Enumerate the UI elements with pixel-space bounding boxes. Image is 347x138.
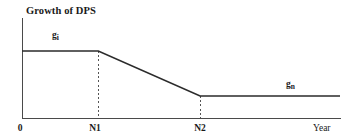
gi-subscript-text: i	[57, 33, 59, 42]
gi-annotation-label: gi	[52, 30, 59, 40]
growth-of-dps-chart: Growth of DPS gi gn 0 N1 N2 Year	[0, 0, 347, 138]
chart-canvas	[0, 0, 347, 138]
gn-annotation-label: gn	[286, 79, 295, 89]
chart-title: Growth of DPS	[26, 5, 96, 16]
x-tick-label-n1: N1	[83, 123, 107, 133]
gn-subscript-text: n	[291, 82, 295, 91]
x-axis-title: Year	[313, 123, 331, 133]
x-tick-label-n2: N2	[188, 123, 212, 133]
x-tick-label-origin: 0	[13, 123, 27, 133]
